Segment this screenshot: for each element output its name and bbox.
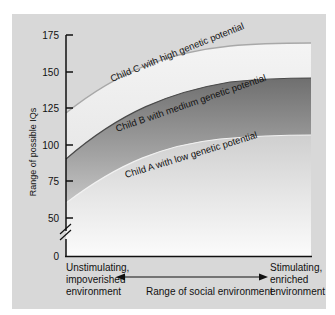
- tick-label-0: 0: [53, 251, 59, 262]
- tick-label-100: 100: [42, 140, 59, 151]
- x-right-line-3: environment: [270, 286, 325, 298]
- arrow-right-icon: [259, 274, 268, 281]
- x-axis-title: Range of social environment: [146, 286, 273, 298]
- x-left-line-2: impoverished: [66, 274, 129, 286]
- x-right-line-2: enriched: [270, 274, 325, 286]
- x-right-label: Stimulating, enriched environment: [270, 262, 325, 298]
- tick-label-75: 75: [48, 176, 60, 187]
- y-axis-title: Range of possible IQs: [28, 107, 38, 196]
- x-left-label: Unstimulating, impoverished environment: [66, 262, 129, 298]
- tick-label-50: 50: [48, 213, 60, 224]
- x-left-line-1: Unstimulating,: [66, 262, 129, 274]
- x-left-line-3: environment: [66, 286, 129, 298]
- x-right-line-1: Stimulating,: [270, 262, 325, 274]
- tick-label-125: 125: [42, 103, 59, 114]
- tick-label-150: 150: [42, 67, 59, 78]
- tick-label-175: 175: [42, 30, 59, 41]
